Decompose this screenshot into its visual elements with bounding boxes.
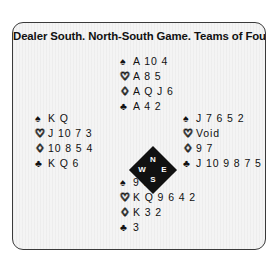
compass-label-south: S — [147, 176, 159, 184]
diamond-icon: ♢ — [120, 86, 133, 97]
hand-east-hearts-row: ♡ Void — [183, 126, 262, 141]
hand-west-diamonds: 10 8 5 4 — [48, 143, 93, 154]
hand-west-hearts-row: ♡ J 10 7 3 — [35, 126, 93, 141]
spade-icon: ♠ — [183, 113, 196, 124]
diamond-icon: ♢ — [35, 143, 48, 154]
hand-east-spades-row: ♠ J 7 6 5 2 — [183, 111, 262, 126]
club-icon: ♣ — [183, 158, 196, 169]
club-icon: ♣ — [120, 101, 133, 112]
compass-rose: N W E S — [131, 148, 175, 192]
diamond-icon: ♢ — [120, 207, 133, 218]
hand-south-hearts-row: ♡ K Q 9 6 4 2 — [120, 190, 196, 205]
heart-icon: ♡ — [120, 192, 133, 203]
hand-north-diamonds: A Q J 6 — [133, 86, 174, 97]
hand-north-clubs: A 4 2 — [133, 101, 161, 112]
diamond-icon: ♢ — [183, 143, 196, 154]
hand-north-diamonds-row: ♢ A Q J 6 — [120, 84, 174, 99]
hand-south-clubs-row: ♣ 3 — [120, 220, 196, 235]
bridge-deal-card: Dealer South. North-South Game. Teams of… — [12, 22, 266, 250]
hand-north-spades: A 10 4 — [133, 56, 168, 67]
hand-south-diamonds: K 3 2 — [133, 207, 162, 218]
hand-west-clubs: K Q 6 — [48, 158, 79, 169]
compass-label-west: W — [136, 166, 148, 174]
hand-south-hearts: K Q 9 6 4 2 — [133, 192, 196, 203]
compass-label-north: N — [147, 156, 159, 164]
hand-west-spades-row: ♠ K Q — [35, 111, 93, 126]
deal-title: Dealer South. North-South Game. Teams of… — [13, 30, 265, 42]
hand-west: ♠ K Q ♡ J 10 7 3 ♢ 10 8 5 4 ♣ K Q 6 — [35, 111, 93, 171]
heart-icon: ♡ — [35, 128, 48, 139]
hand-east: ♠ J 7 6 5 2 ♡ Void ♢ 9 7 ♣ J 10 9 8 7 5 — [183, 111, 262, 171]
hand-east-diamonds-row: ♢ 9 7 — [183, 141, 262, 156]
club-icon: ♣ — [120, 222, 133, 233]
compass-label-east: E — [158, 166, 170, 174]
hand-north: ♠ A 10 4 ♡ A 8 5 ♢ A Q J 6 ♣ A 4 2 — [120, 54, 174, 114]
hand-east-clubs-row: ♣ J 10 9 8 7 5 — [183, 156, 262, 171]
hand-west-spades: K Q — [48, 113, 69, 124]
hand-north-hearts-row: ♡ A 8 5 — [120, 69, 174, 84]
hand-east-spades: J 7 6 5 2 — [196, 113, 244, 124]
hand-east-clubs: J 10 9 8 7 5 — [196, 158, 262, 169]
hand-south-clubs: 3 — [133, 222, 140, 233]
club-icon: ♣ — [35, 158, 48, 169]
heart-icon: ♡ — [183, 128, 196, 139]
hand-east-hearts: Void — [196, 128, 220, 139]
hand-north-clubs-row: ♣ A 4 2 — [120, 99, 174, 114]
spade-icon: ♠ — [35, 113, 48, 124]
hand-west-hearts: J 10 7 3 — [48, 128, 93, 139]
hand-north-spades-row: ♠ A 10 4 — [120, 54, 174, 69]
hand-east-diamonds: 9 7 — [196, 143, 213, 154]
hand-north-hearts: A 8 5 — [133, 71, 161, 82]
hand-west-diamonds-row: ♢ 10 8 5 4 — [35, 141, 93, 156]
heart-icon: ♡ — [120, 71, 133, 82]
hand-south-diamonds-row: ♢ K 3 2 — [120, 205, 196, 220]
hand-west-clubs-row: ♣ K Q 6 — [35, 156, 93, 171]
spade-icon: ♠ — [120, 56, 133, 67]
